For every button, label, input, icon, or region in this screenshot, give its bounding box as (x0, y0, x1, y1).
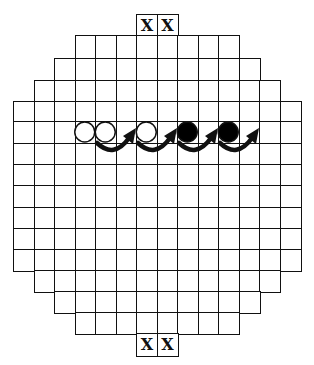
white-stone[interactable] (95, 122, 115, 142)
white-stone[interactable] (136, 122, 156, 142)
stones-and-arrows-layer (0, 0, 314, 365)
white-stone[interactable] (75, 122, 95, 142)
black-stone[interactable] (177, 122, 197, 142)
black-stone[interactable] (218, 122, 238, 142)
